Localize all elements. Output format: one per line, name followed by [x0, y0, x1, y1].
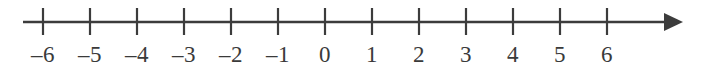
arrow-right-icon — [664, 13, 683, 31]
tick-label: –5 — [77, 42, 102, 67]
number-line-figure: –6 –5 –4 –3 –2 –1 0 1 2 3 4 5 6 — [0, 0, 703, 72]
tick-label-group: –6 –5 –4 –3 –2 –1 0 1 2 3 4 5 6 — [30, 42, 613, 67]
tick-label: 3 — [460, 42, 472, 67]
tick-label: –6 — [30, 42, 55, 67]
tick-label: 4 — [507, 42, 519, 67]
tick-label: 1 — [366, 42, 378, 67]
number-line-canvas: –6 –5 –4 –3 –2 –1 0 1 2 3 4 5 6 — [0, 0, 703, 72]
tick-label: 5 — [554, 42, 566, 67]
tick-label: –3 — [171, 42, 196, 67]
tick-label: 0 — [319, 42, 331, 67]
tick-label: 6 — [601, 42, 613, 67]
tick-label: –4 — [124, 42, 149, 67]
tick-label: –2 — [218, 42, 243, 67]
tick-label: –1 — [265, 42, 290, 67]
tick-label: 2 — [413, 42, 425, 67]
